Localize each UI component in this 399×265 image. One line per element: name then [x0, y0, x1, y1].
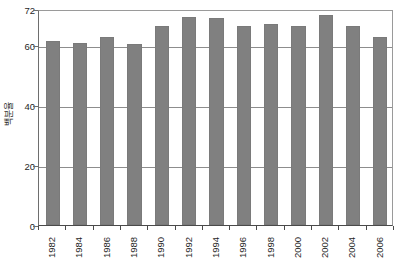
x-axis-tick-label-text: 1994	[210, 237, 221, 258]
x-axis-tick-label-text: 1986	[101, 237, 112, 258]
x-axis-tick-label-text: 2000	[292, 237, 303, 258]
x-axis-tick-labels: 1982198419861988199019921994199619982000…	[38, 228, 393, 265]
x-axis-tick-label-text: 1996	[237, 237, 248, 258]
bar	[264, 24, 278, 225]
x-axis-tick-label-text: 1988	[128, 237, 139, 258]
bar	[127, 44, 141, 226]
x-axis-tick-label-text: 2002	[319, 237, 330, 258]
y-axis-tick-label: 0	[12, 221, 35, 232]
x-axis-tick-label-text: 1984	[73, 237, 84, 258]
y-axis-tick-labels: 020406072	[12, 0, 35, 265]
bar	[155, 26, 169, 226]
bar	[346, 26, 360, 226]
x-axis-tick-label-text: 2006	[374, 237, 385, 258]
x-axis-tick-label: 2006	[361, 228, 397, 264]
x-axis-tick-label-text: 1992	[183, 237, 194, 258]
x-axis-tick-label-text: 1990	[155, 237, 166, 258]
x-axis-tick-label-text: 1982	[46, 237, 57, 258]
plot-area	[38, 10, 393, 226]
bar	[182, 17, 196, 226]
y-axis-tick-label: 20	[12, 161, 35, 172]
x-axis-tick-label-text: 2004	[347, 237, 358, 258]
y-axis-tick-label: 40	[12, 101, 35, 112]
bar	[100, 37, 114, 225]
bar	[319, 15, 333, 225]
y-axis-tick-label: 60	[12, 41, 35, 52]
y-axis-tick-label: 72	[12, 5, 35, 16]
bar	[46, 41, 60, 226]
bar	[237, 26, 251, 226]
bar	[291, 26, 305, 226]
bar	[373, 37, 387, 225]
chart-container: 백분율 020406072 19821984198619881990199219…	[0, 0, 399, 265]
bar-series	[39, 11, 392, 225]
bar	[209, 18, 223, 225]
bar	[73, 43, 87, 225]
x-axis-tick-label-text: 1998	[265, 237, 276, 258]
